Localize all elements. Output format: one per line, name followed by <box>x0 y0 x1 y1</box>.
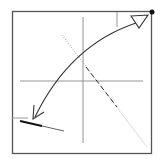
corner-dot <box>150 10 155 15</box>
paper-square <box>13 12 152 154</box>
fold-diagram <box>0 0 164 159</box>
